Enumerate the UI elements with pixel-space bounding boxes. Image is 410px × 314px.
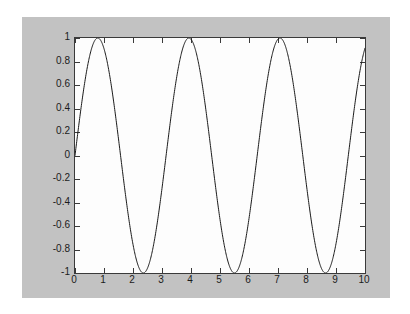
x-tick-label: 2 bbox=[129, 275, 135, 285]
x-tick-label: 0 bbox=[71, 275, 77, 285]
y-tick-label: 0 bbox=[64, 150, 70, 160]
y-tick-label: -0.8 bbox=[53, 244, 70, 254]
plot-area-svg bbox=[75, 38, 365, 273]
y-tick-label: -1 bbox=[61, 267, 70, 277]
plot-axes bbox=[74, 37, 366, 274]
y-tick-label: -0.4 bbox=[53, 197, 70, 207]
x-tick-label: 8 bbox=[303, 275, 309, 285]
data-series-line bbox=[75, 38, 365, 273]
x-tick-label: 7 bbox=[274, 275, 280, 285]
x-tick-label: 5 bbox=[216, 275, 222, 285]
y-tick-label: 0.8 bbox=[56, 56, 70, 66]
x-tick-label: 9 bbox=[332, 275, 338, 285]
x-tick-label: 3 bbox=[158, 275, 164, 285]
y-axis-tick-labels: -1-0.8-0.6-0.4-0.200.20.40.60.81 bbox=[22, 37, 70, 272]
x-tick-label: 4 bbox=[187, 275, 193, 285]
y-tick-label: -0.2 bbox=[53, 173, 70, 183]
y-tick-label: -0.6 bbox=[53, 220, 70, 230]
x-tick-label: 6 bbox=[245, 275, 251, 285]
x-tick-label: 10 bbox=[358, 275, 369, 285]
y-tick-label: 0.2 bbox=[56, 126, 70, 136]
x-axis-tick-labels: 012345678910 bbox=[74, 275, 364, 289]
figure-canvas: -1-0.8-0.6-0.4-0.200.20.40.60.81 0123456… bbox=[22, 17, 390, 298]
tick-marks bbox=[75, 38, 365, 273]
y-tick-label: 0.6 bbox=[56, 79, 70, 89]
y-tick-label: 1 bbox=[64, 32, 70, 42]
x-tick-label: 1 bbox=[100, 275, 106, 285]
y-tick-label: 0.4 bbox=[56, 103, 70, 113]
